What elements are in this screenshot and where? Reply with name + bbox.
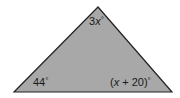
angle-label-bottom-left: 44° [33,77,48,88]
bottom-right-angle-degree: ° [148,76,151,85]
bottom-right-angle-expression: + 20) [119,76,147,88]
angle-label-bottom-right: (x + 20)° [110,77,151,88]
bottom-left-angle-value: 44 [33,76,45,88]
top-angle-degree: ° [101,15,104,24]
bottom-left-angle-degree: ° [45,76,48,85]
angle-label-top: 3x° [89,16,104,27]
